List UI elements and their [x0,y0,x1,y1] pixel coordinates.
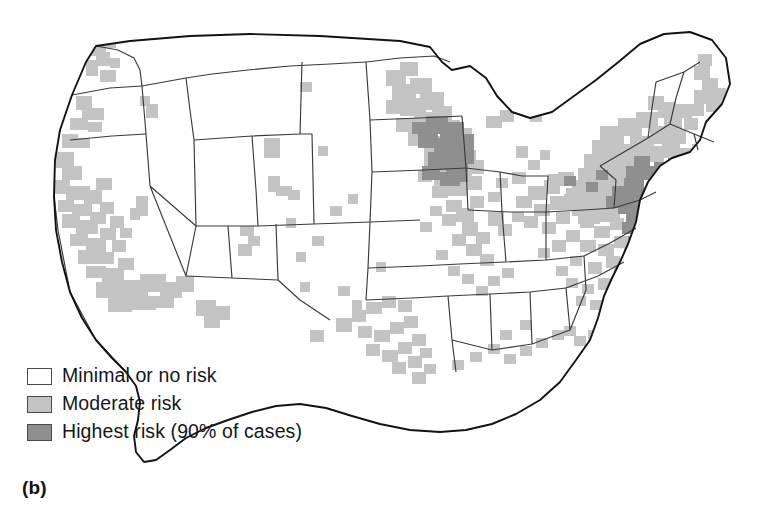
legend-swatch-minimal-icon [27,368,52,385]
figure-panel: Minimal or no risk Moderate risk Highest… [0,0,767,530]
legend-label-minimal: Minimal or no risk [62,366,217,386]
panel-label: (b) [22,477,47,499]
legend-swatch-moderate-icon [27,396,52,413]
legend-item-minimal: Minimal or no risk [27,362,357,390]
map-svg [0,0,767,530]
legend-swatch-highest-icon [27,424,52,441]
map-legend: Minimal or no risk Moderate risk Highest… [27,362,357,446]
legend-item-moderate: Moderate risk [27,390,357,418]
us-risk-map [0,0,767,530]
legend-item-highest: Highest risk (90% of cases) [27,418,357,446]
legend-label-moderate: Moderate risk [62,394,181,414]
legend-label-highest: Highest risk (90% of cases) [62,422,302,442]
